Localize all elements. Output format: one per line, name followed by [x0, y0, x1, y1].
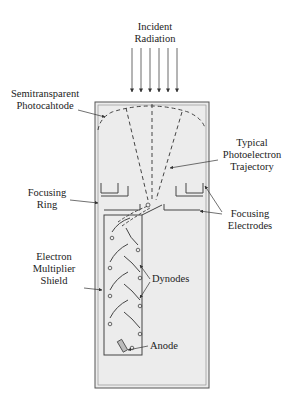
focusing-ring-label-2: Ring — [37, 199, 58, 210]
photocathode-label-2: Photocahtode — [16, 100, 73, 111]
focusing-electrodes-label-1: Focusing — [231, 208, 270, 219]
anode-label: Anode — [150, 340, 178, 351]
trajectory-label-1: Typical — [236, 137, 267, 148]
incident-radiation-label-2: Radiation — [135, 33, 177, 44]
photocathode-label-1: Semitransparent — [11, 88, 79, 99]
focusing-ring-label-1: Focusing — [28, 187, 67, 198]
shield-label-3: Shield — [41, 275, 69, 286]
focusing-electrodes-label-2: Electrodes — [228, 220, 272, 231]
pmt-diagram: Incident Radiation — [0, 0, 290, 406]
trajectory-label-2: Photoelectron — [223, 149, 282, 160]
incident-radiation-arrows — [132, 48, 177, 92]
shield-label-2: Multiplier — [33, 263, 76, 274]
dynodes-label: Dynodes — [152, 273, 189, 284]
incident-radiation-label-1: Incident — [138, 21, 172, 32]
trajectory-label-3: Trajectory — [230, 161, 274, 172]
shield-label-1: Electron — [36, 251, 72, 262]
